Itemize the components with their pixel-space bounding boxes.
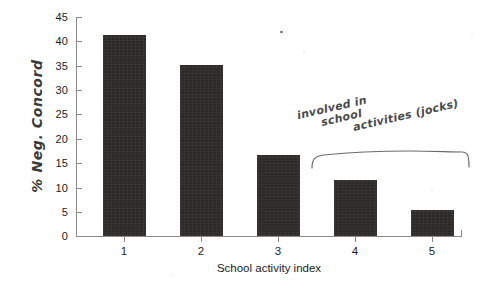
y-tick-30 bbox=[76, 90, 82, 91]
scan-speck bbox=[280, 31, 283, 33]
x-tick-1 bbox=[124, 236, 125, 242]
y-tick-label-10: 10 bbox=[56, 183, 68, 193]
y-tick-20 bbox=[76, 139, 82, 140]
bar-category-3 bbox=[257, 155, 300, 236]
x-tick-2 bbox=[201, 236, 202, 242]
y-axis-title: % Neg. Concord bbox=[29, 41, 45, 211]
y-tick-label-25: 25 bbox=[56, 109, 68, 119]
y-tick-25 bbox=[76, 114, 82, 115]
bar-category-5 bbox=[411, 210, 454, 236]
y-tick-15 bbox=[76, 163, 82, 164]
y-tick-label-45: 45 bbox=[56, 12, 68, 22]
y-tick-10 bbox=[76, 188, 82, 189]
bar-chart-figure: 45 40 35 30 25 20 15 10 bbox=[0, 0, 491, 289]
x-tick-label-1: 1 bbox=[104, 245, 144, 257]
x-axis-title: School activity index bbox=[76, 262, 462, 274]
y-tick-label-35: 35 bbox=[56, 61, 68, 71]
x-tick-3 bbox=[278, 236, 279, 242]
y-tick-label-15: 15 bbox=[56, 158, 68, 168]
y-tick-35 bbox=[76, 66, 82, 67]
bar-category-2 bbox=[180, 65, 223, 236]
x-tick-label-2: 2 bbox=[181, 245, 221, 257]
x-tick-label-3: 3 bbox=[258, 245, 298, 257]
y-tick-label-5: 5 bbox=[62, 207, 68, 217]
y-tick-label-20: 20 bbox=[56, 134, 68, 144]
bar-category-4 bbox=[334, 180, 377, 236]
y-tick-label-30: 30 bbox=[56, 85, 68, 95]
x-tick-label-4: 4 bbox=[335, 245, 375, 257]
x-tick-label-5: 5 bbox=[412, 245, 452, 257]
y-tick-45 bbox=[76, 17, 82, 18]
bar-category-1 bbox=[103, 35, 146, 236]
y-tick-label-0: 0 bbox=[62, 231, 68, 241]
y-tick-0 bbox=[76, 236, 82, 237]
y-tick-40 bbox=[76, 41, 82, 42]
y-tick-5 bbox=[76, 212, 82, 213]
y-tick-label-40: 40 bbox=[56, 36, 68, 46]
x-tick-5 bbox=[432, 236, 433, 242]
x-tick-4 bbox=[355, 236, 356, 242]
